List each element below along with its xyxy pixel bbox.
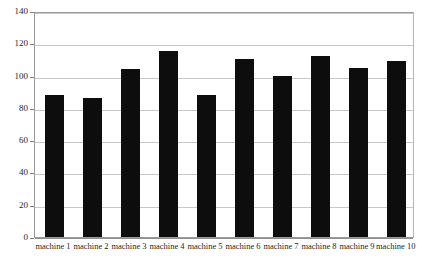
x-tick-label: machine 4 — [148, 241, 186, 251]
bar-slot — [187, 13, 225, 237]
x-tick-label: machine 5 — [186, 241, 224, 251]
bar[interactable] — [197, 95, 216, 237]
bar-slot — [225, 13, 263, 237]
bar-slot — [73, 13, 111, 237]
bar-slot — [339, 13, 377, 237]
bar-chart: 020406080100120140 machine 1machine 2mac… — [0, 0, 424, 269]
y-tick-label: 0 — [24, 233, 29, 242]
x-tick-label: machine 7 — [262, 241, 300, 251]
plot-area — [34, 12, 414, 238]
y-tick-label: 20 — [19, 201, 28, 210]
y-tick-label: 100 — [15, 72, 29, 81]
bar-slot — [111, 13, 149, 237]
x-tick-label: machine 6 — [224, 241, 262, 251]
x-tick-label: machine 3 — [110, 241, 148, 251]
x-tick-label: machine 10 — [376, 241, 414, 251]
x-tick-label: machine 9 — [338, 241, 376, 251]
bar[interactable] — [273, 76, 292, 237]
bar-slot — [149, 13, 187, 237]
bars-layer — [35, 13, 413, 237]
bar[interactable] — [235, 59, 254, 237]
bar-slot — [301, 13, 339, 237]
bar[interactable] — [121, 69, 140, 237]
bar[interactable] — [311, 56, 330, 237]
bar[interactable] — [159, 51, 178, 237]
bar[interactable] — [83, 98, 102, 237]
y-tick-label: 40 — [19, 168, 28, 177]
bar-slot — [35, 13, 73, 237]
bar[interactable] — [45, 95, 64, 237]
gridline-0 — [35, 238, 413, 239]
bar-slot — [377, 13, 415, 237]
x-tick-label: machine 1 — [34, 241, 72, 251]
y-tick-label: 80 — [19, 104, 28, 113]
x-tick-label: machine 8 — [300, 241, 338, 251]
y-tick-label: 140 — [15, 7, 29, 16]
y-tick-mark — [30, 238, 34, 239]
bar[interactable] — [387, 61, 406, 237]
bar-slot — [263, 13, 301, 237]
x-axis: machine 1machine 2machine 3machine 4mach… — [34, 241, 414, 261]
x-tick-label: machine 2 — [72, 241, 110, 251]
y-tick-label: 60 — [19, 136, 28, 145]
bar[interactable] — [349, 68, 368, 238]
y-tick-label: 120 — [15, 39, 29, 48]
y-axis: 020406080100120140 — [0, 12, 34, 238]
